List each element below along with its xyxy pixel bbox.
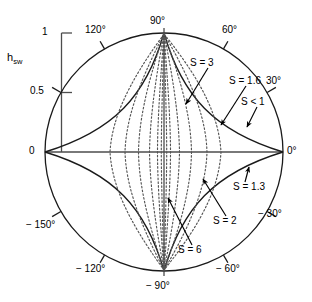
angle-label-120: 120° [85,25,106,35]
leader-s13 [245,167,249,182]
principal-axes [45,28,283,276]
axis-tick-label-1: 1 [42,27,48,37]
leader-slt1 [247,107,257,127]
annotation-label-s6: S = 6 [178,245,202,255]
angle-label-90: 90° [150,16,165,26]
leader-s6 [168,198,192,245]
angle-label-m150: − 150° [26,220,55,230]
angle-label-m90: − 90° [146,281,170,291]
annotation-label-s13: S = 1.3 [233,182,265,192]
polar-plot-canvas [0,0,312,302]
annotation-label-s3: S = 3 [190,58,214,68]
axis-tick-label-0: 0 [29,146,35,156]
angle-label-0: 0° [287,146,297,156]
annotation-label-s2: S = 2 [213,216,237,226]
polar-chart-figure: hsw 1 0.5 0 90° 60° 30° 0° − 30° − 60° −… [0,0,312,302]
leader-s2 [203,179,226,216]
annotation-label-s16: S = 1.6 [229,76,261,86]
hsw-axis [62,33,73,152]
angle-label-m120: − 120° [76,264,105,274]
leader-s3 [186,68,208,104]
annotation-label-slt1: S < 1 [241,97,265,107]
angle-label-30: 30° [266,76,281,86]
axis-tick-label-0-5: 0.5 [30,86,44,96]
angle-label-60: 60° [222,25,237,35]
angle-label-m60: − 60° [216,264,240,274]
angle-label-m30: − 30° [258,209,282,219]
axis-label-hsw: hsw [7,52,22,66]
